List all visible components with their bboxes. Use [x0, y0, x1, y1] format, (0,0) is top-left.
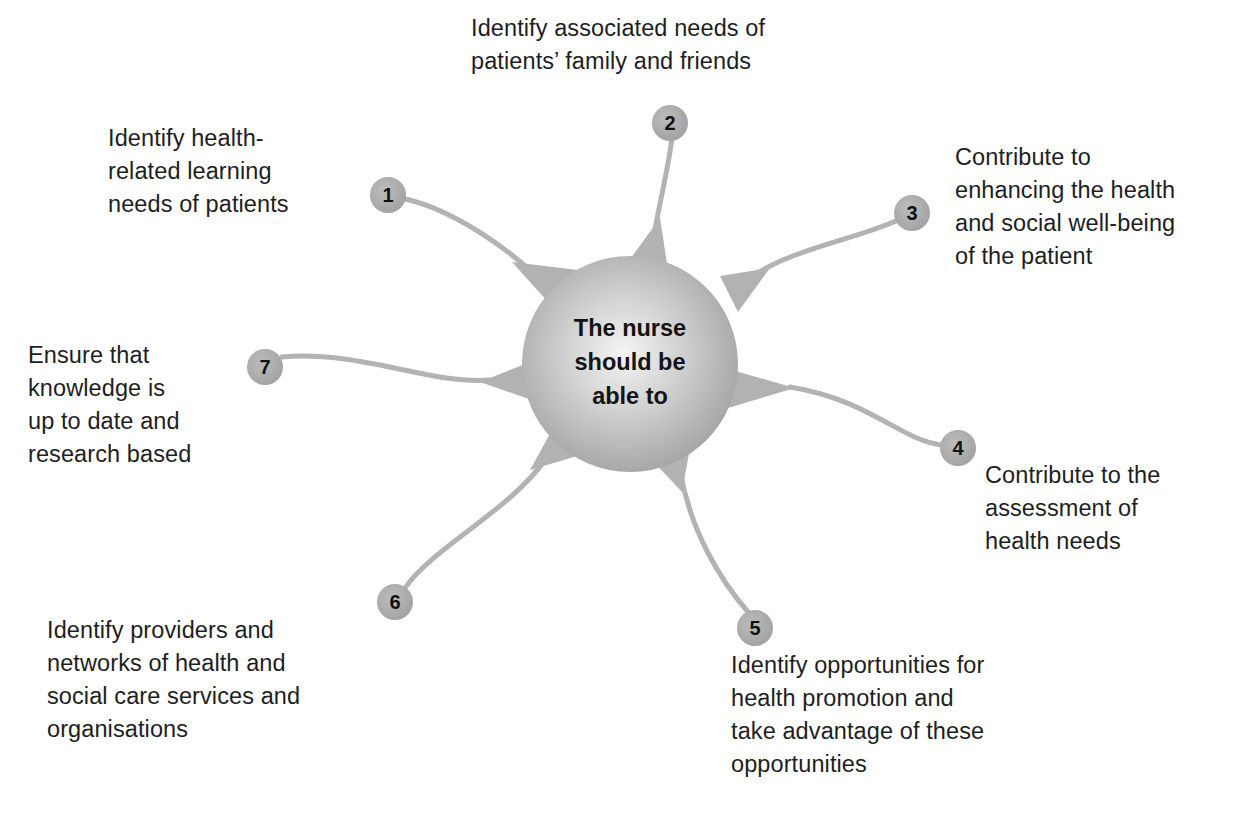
node-number-7: 7: [247, 349, 283, 385]
connector-4: [790, 387, 942, 445]
connector-3: [755, 220, 898, 275]
node-number-1: 1: [370, 177, 406, 213]
connector-7: [282, 356, 490, 380]
node-number-4: 4: [940, 430, 976, 466]
connector-5: [680, 470, 748, 612]
connector-1: [400, 198, 530, 270]
node-label-1: Identify health- related learning needs …: [108, 122, 289, 221]
node-label-2: Identify associated needs of patients’ f…: [471, 12, 765, 78]
center-label: The nurse should be able to: [540, 311, 720, 413]
node-label-3: Contribute to enhancing the health and s…: [955, 141, 1175, 273]
node-label-5: Identify opportunities for health promot…: [731, 649, 984, 781]
node-number-3: 3: [894, 195, 930, 231]
node-number-5: 5: [737, 610, 773, 646]
node-label-7: Ensure that knowledge is up to date and …: [28, 339, 191, 471]
connector-6: [405, 460, 545, 588]
connector-2: [655, 138, 672, 230]
node-number-2: 2: [652, 105, 688, 141]
spike-3: [720, 268, 770, 312]
node-label-6: Identify providers and networks of healt…: [47, 614, 300, 746]
spike-4: [728, 370, 795, 408]
node-number-6: 6: [377, 584, 413, 620]
node-label-4: Contribute to the assessment of health n…: [985, 459, 1160, 558]
